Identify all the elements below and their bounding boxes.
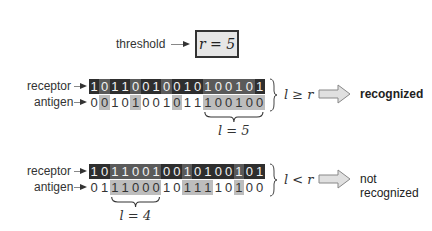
arrow-right-icon — [183, 41, 190, 47]
bit-cell: 0 — [192, 164, 202, 179]
bit-cell: 0 — [244, 180, 254, 195]
bit-cell: 1 — [203, 164, 213, 179]
bit-cell: 1 — [120, 79, 130, 94]
right-brace-icon — [268, 163, 278, 197]
bit-cell: 0 — [89, 180, 99, 195]
bit-cell: 1 — [130, 95, 140, 110]
bit-cell: 0 — [213, 164, 223, 179]
bit-cell: 1 — [234, 95, 244, 110]
bit-cell: 0 — [130, 79, 140, 94]
threshold-arrow-line — [171, 44, 183, 45]
bit-cell: 1 — [99, 180, 109, 195]
bit-cell: 0 — [99, 164, 109, 179]
bit-cell: 1 — [203, 180, 213, 195]
bit-cell: 1 — [213, 180, 223, 195]
bit-cell: 0 — [223, 95, 233, 110]
bit-cell: 1 — [151, 164, 161, 179]
bit-cell: 0 — [223, 180, 233, 195]
match-length-label: l = 5 — [218, 123, 250, 138]
receptor-label: receptor — [27, 79, 71, 93]
arrow-right-icon — [80, 184, 87, 190]
bit-cell: 1 — [182, 180, 192, 195]
bit-cell: 1 — [203, 95, 213, 110]
condition-text: l ≥ r — [284, 87, 314, 102]
receptor-label: receptor — [27, 164, 71, 178]
antigen-bitstring: 00101001011100100 — [89, 95, 265, 110]
bit-cell: 0 — [223, 79, 233, 94]
bit-cell: 0 — [172, 180, 182, 195]
bit-cell: 0 — [151, 180, 161, 195]
bit-cell: 1 — [234, 180, 244, 195]
bit-cell: 1 — [255, 164, 265, 179]
result-text: recognized — [360, 87, 423, 101]
bit-cell: 1 — [110, 95, 120, 110]
bit-cell: 0 — [192, 79, 202, 94]
bit-cell: 0 — [244, 164, 254, 179]
bit-cell: 1 — [110, 164, 120, 179]
block-arrow-icon — [318, 84, 352, 104]
bit-cell: 0 — [151, 95, 161, 110]
bit-cell: 0 — [244, 95, 254, 110]
receptor-bitstring: 10110010010100101 — [89, 164, 265, 179]
bit-cell: 0 — [141, 79, 151, 94]
bit-cell: 0 — [130, 180, 140, 195]
bit-cell: 0 — [141, 95, 151, 110]
bit-cell: 1 — [151, 79, 161, 94]
bit-cell: 1 — [192, 95, 202, 110]
bit-cell: 1 — [255, 79, 265, 94]
bit-cell: 0 — [255, 95, 265, 110]
bit-cell: 1 — [234, 79, 244, 94]
arrow-right-icon — [80, 168, 87, 174]
bit-cell: 1 — [192, 180, 202, 195]
arrow-right-icon — [80, 83, 87, 89]
bit-cell: 1 — [110, 79, 120, 94]
threshold-label: threshold — [116, 37, 165, 51]
bit-cell: 0 — [244, 79, 254, 94]
receptor-bitstring: 10110010010100101 — [89, 79, 265, 94]
bit-cell: 1 — [161, 95, 171, 110]
bit-cell: 0 — [141, 164, 151, 179]
block-arrow-icon — [318, 169, 352, 189]
bit-cell: 0 — [223, 164, 233, 179]
bit-cell: 1 — [182, 95, 192, 110]
bit-cell: 0 — [120, 95, 130, 110]
threshold-box: r = 5 — [195, 30, 239, 58]
bit-cell: 0 — [99, 79, 109, 94]
bit-cell: 0 — [130, 164, 140, 179]
bit-cell: 0 — [141, 180, 151, 195]
bit-cell: 1 — [89, 164, 99, 179]
condition-text: l < r — [284, 172, 314, 187]
antigen-label: antigen — [34, 180, 73, 194]
bit-cell: 0 — [172, 79, 182, 94]
bit-cell: 1 — [182, 164, 192, 179]
bit-cell: 0 — [213, 95, 223, 110]
bit-cell: 1 — [89, 79, 99, 94]
bit-cell: 1 — [182, 79, 192, 94]
antigen-bitstring: 01110001011110100 — [89, 180, 265, 195]
bit-cell: 0 — [213, 79, 223, 94]
bit-cell: 0 — [89, 95, 99, 110]
bit-cell: 0 — [172, 164, 182, 179]
bit-cell: 1 — [161, 180, 171, 195]
right-brace-icon — [268, 78, 278, 112]
bit-cell: 0 — [161, 79, 171, 94]
bit-cell: 1 — [234, 164, 244, 179]
antigen-label: antigen — [34, 95, 73, 109]
bit-cell: 1 — [120, 164, 130, 179]
brace-icon — [0, 111, 432, 123]
bit-cell: 1 — [110, 180, 120, 195]
bit-cell: 1 — [203, 79, 213, 94]
bit-cell: 0 — [255, 180, 265, 195]
arrow-right-icon — [80, 99, 87, 105]
bit-cell: 1 — [120, 180, 130, 195]
bit-cell: 0 — [161, 164, 171, 179]
bit-cell: 0 — [172, 95, 182, 110]
bit-cell: 0 — [99, 95, 109, 110]
threshold-value: r = 5 — [199, 36, 235, 52]
result-text: not recognized — [360, 172, 432, 200]
match-length-label: l = 4 — [120, 208, 152, 223]
